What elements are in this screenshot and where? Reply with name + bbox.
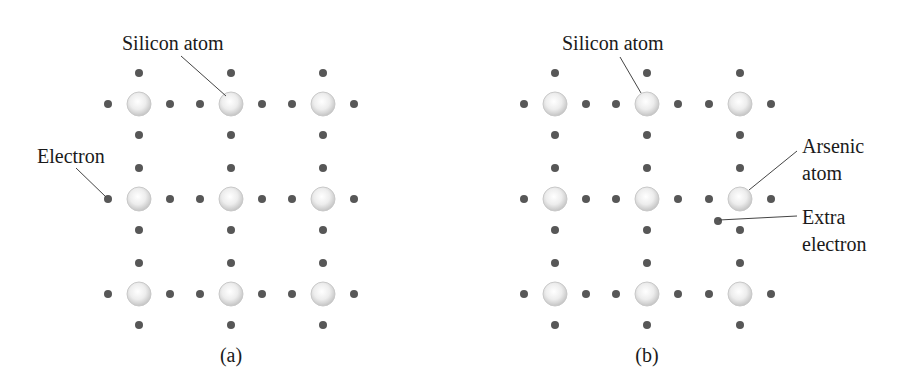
silicon-atom	[635, 92, 659, 116]
electron-dot	[582, 195, 590, 203]
electron-dot	[551, 259, 559, 267]
electron-dot	[705, 290, 713, 298]
electron-dot	[551, 131, 559, 139]
electron-dot	[227, 131, 235, 139]
silicon-atom-label: Silicon atom	[122, 32, 226, 96]
leader-line	[76, 168, 106, 197]
silicon-atom	[543, 92, 567, 116]
silicon-atom	[635, 282, 659, 306]
electron-dot	[350, 100, 358, 108]
panel-a-pure-silicon: Silicon atomElectron(a)	[37, 32, 358, 367]
semiconductor-lattice-figure: Silicon atomElectron(a) Silicon atomArse…	[0, 0, 901, 383]
arsenic-atom-label: Arsenicatom	[749, 135, 864, 190]
atoms	[127, 92, 335, 306]
electron-dot	[551, 321, 559, 329]
electron-dot	[227, 321, 235, 329]
label-text: Silicon atom	[562, 32, 664, 54]
electron-dot	[551, 164, 559, 172]
electron-dot	[288, 195, 296, 203]
electron-dot	[643, 321, 651, 329]
electron-dot	[551, 69, 559, 77]
electron-label: Electron	[37, 145, 106, 197]
electron-dot	[319, 164, 327, 172]
electron-dot	[319, 69, 327, 77]
silicon-atom	[127, 92, 151, 116]
silicon-atom	[311, 92, 335, 116]
leader-line	[719, 216, 797, 220]
electron-dot	[196, 100, 204, 108]
electron-dot	[582, 290, 590, 298]
electron-dot	[520, 100, 528, 108]
silicon-atom	[127, 282, 151, 306]
electron-dot	[612, 290, 620, 298]
electron-dot	[227, 259, 235, 267]
electron-dot	[258, 290, 266, 298]
electron-dot	[705, 100, 713, 108]
electron-dot	[135, 131, 143, 139]
silicon-atom	[127, 187, 151, 211]
panel-b-arsenic-doped-silicon: Silicon atomArsenicatomExtraelectron(b)	[520, 32, 866, 367]
label-text: electron	[802, 233, 866, 255]
label-text: Silicon atom	[122, 32, 224, 54]
electron-dot	[705, 195, 713, 203]
electron-dot	[227, 226, 235, 234]
electron-dot	[135, 164, 143, 172]
electron-dot	[196, 195, 204, 203]
leader-line	[620, 57, 641, 93]
electron-dot	[736, 69, 744, 77]
electron-dot	[736, 259, 744, 267]
electron-dot	[319, 131, 327, 139]
label-text: atom	[802, 162, 842, 184]
electron-dot	[258, 100, 266, 108]
label-text: Electron	[37, 145, 105, 167]
electron-dot	[736, 164, 744, 172]
silicon-atom	[728, 282, 752, 306]
atoms	[543, 92, 752, 306]
electron-dot	[104, 290, 112, 298]
electron-dot	[196, 290, 204, 298]
silicon-atom	[543, 187, 567, 211]
electron-dot	[350, 290, 358, 298]
electron-dot	[520, 290, 528, 298]
label-text: Extra	[802, 206, 845, 228]
electron-dot	[227, 69, 235, 77]
electron-dot	[767, 195, 775, 203]
electron-dot	[227, 164, 235, 172]
electron-dot	[135, 259, 143, 267]
silicon-atom	[219, 187, 243, 211]
electron-dot	[612, 195, 620, 203]
electron-dot	[135, 226, 143, 234]
electron-dot	[582, 100, 590, 108]
label-text: Arsenic	[802, 135, 864, 157]
electron-dot	[166, 195, 174, 203]
electron-dot	[643, 131, 651, 139]
electron-dot	[643, 226, 651, 234]
electron-dot	[643, 164, 651, 172]
silicon-atom	[311, 282, 335, 306]
electron-dot	[288, 100, 296, 108]
silicon-atom	[219, 282, 243, 306]
electron-dot	[736, 226, 744, 234]
electron-dot	[643, 69, 651, 77]
electron-dot	[319, 321, 327, 329]
lattice-diagram: Silicon atomElectron(a) Silicon atomArse…	[0, 0, 901, 383]
panel-caption: (b)	[635, 344, 658, 367]
silicon-atom	[635, 187, 659, 211]
leader-line	[181, 56, 226, 96]
electron-dot	[350, 195, 358, 203]
electron-dot	[674, 100, 682, 108]
extra-electron-dot	[714, 217, 722, 225]
electron-dot	[674, 290, 682, 298]
arsenic-atom	[728, 187, 752, 211]
electron-dot	[551, 226, 559, 234]
silicon-atom	[219, 92, 243, 116]
silicon-atom-label: Silicon atom	[562, 32, 664, 93]
panel-caption: (a)	[220, 344, 242, 367]
electron-dot	[520, 195, 528, 203]
electron-dot	[674, 195, 682, 203]
electron-dot	[104, 100, 112, 108]
electron-dot	[166, 100, 174, 108]
electron-dot	[319, 226, 327, 234]
electron-dot	[288, 290, 296, 298]
electron-dot	[319, 259, 327, 267]
